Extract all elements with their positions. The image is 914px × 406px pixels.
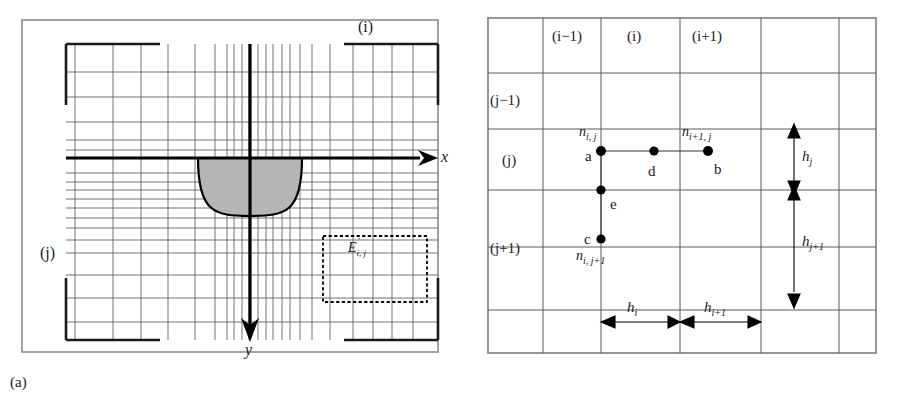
control-volume-label-dot: ˙ [357, 236, 361, 248]
node-label-n-i-jp1: ni, j+1 [576, 248, 605, 266]
node-letter-e: e [610, 196, 617, 213]
panel-b-frame [488, 18, 876, 353]
panel-b-drawing [460, 0, 914, 370]
node-b [703, 146, 713, 156]
node-c [596, 234, 605, 243]
x-axis-label: x [441, 148, 448, 166]
panel-a: x y (i) (j) E˙i, j (a) [0, 0, 460, 406]
control-volume-label-sub: i, j [357, 248, 367, 258]
column-header-i-minus-1: (i−1) [552, 28, 582, 45]
node-label-n-i-j-base: n [579, 124, 586, 139]
panel-b: (i−1) (i) (i+1) (j−1) (j) (j+1) a d b e … [460, 0, 914, 406]
panel-a-drawing [0, 0, 460, 370]
node-label-n-ip1-j: ni+1, j [682, 124, 711, 142]
node-label-n-ip1-j-sub: i+1, j [689, 131, 711, 142]
node-letter-d: d [648, 163, 656, 180]
node-label-n-i-j: ni, j [579, 124, 597, 142]
node-label-n-i-j-sub: i, j [586, 131, 597, 142]
dimension-label-h-j-base: h [802, 148, 810, 164]
dimension-label-h-i-plus-1-sub: i+1 [712, 307, 727, 318]
panel-a-caption: (a) [10, 374, 27, 391]
dimension-label-h-i-sub: i [635, 307, 638, 318]
node-letter-c: c [584, 231, 591, 248]
node-label-n-i-jp1-sub: i, j+1 [583, 255, 605, 266]
dimension-label-h-i-plus-1: hi+1 [704, 299, 726, 318]
y-axis-label: y [245, 341, 252, 359]
row-header-j: (j) [502, 152, 516, 169]
node-d [649, 146, 658, 155]
node-e [596, 185, 605, 194]
figure-root: x y (i) (j) E˙i, j (a) [0, 0, 914, 406]
dimension-label-h-j-plus-1: hj+1 [802, 233, 824, 252]
node-label-n-i-jp1-base: n [576, 248, 583, 263]
node-label-n-ip1-j-base: n [682, 124, 689, 139]
row-header-j-minus-1: (j−1) [490, 92, 520, 109]
control-volume-label-base: E [348, 240, 357, 255]
dimension-label-h-i-base: h [627, 299, 635, 315]
row-index-label-a: (j) [40, 244, 55, 262]
node-a [596, 146, 606, 156]
column-header-i: (i) [627, 28, 641, 45]
column-index-label-a: (i) [358, 18, 373, 36]
dimension-label-h-j-sub: j [810, 156, 813, 167]
row-header-j-plus-1: (j+1) [490, 240, 520, 257]
node-letter-a: a [585, 148, 592, 165]
control-volume-label: E˙i, j [348, 241, 366, 258]
dimension-label-h-i-plus-1-base: h [704, 299, 712, 315]
node-letter-b: b [714, 161, 722, 178]
dimension-label-h-j-plus-1-sub: j+1 [810, 241, 825, 252]
dimension-label-h-j-plus-1-base: h [802, 233, 810, 249]
column-header-i-plus-1: (i+1) [692, 28, 722, 45]
dimension-label-h-i: hi [627, 299, 637, 318]
dimension-label-h-j: hj [802, 148, 812, 167]
